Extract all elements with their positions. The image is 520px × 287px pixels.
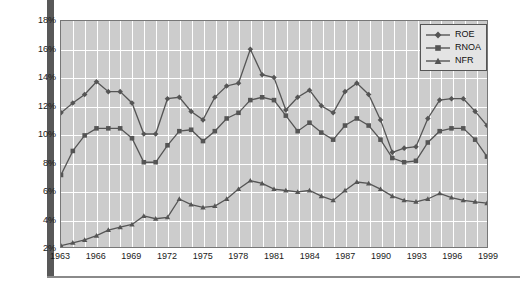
x-axis-tick-label: 1963 — [40, 251, 80, 261]
x-axis-tick-label: 1987 — [325, 251, 365, 261]
x-axis-tick-label: 1993 — [397, 251, 437, 261]
data-point-marker — [141, 131, 147, 137]
legend-item-roe: ROE — [425, 28, 481, 41]
data-point-marker — [60, 173, 63, 178]
data-point-marker — [165, 143, 170, 148]
legend-swatch-diamond-icon — [425, 29, 451, 41]
legend-label-nfr: NFR — [455, 56, 474, 65]
series-rnoa — [60, 95, 488, 177]
data-point-marker — [295, 129, 300, 134]
series-line — [61, 97, 487, 175]
data-point-marker — [355, 116, 360, 121]
x-axis-tick-label: 1999 — [468, 251, 508, 261]
data-point-marker — [248, 98, 253, 103]
x-axis-tick-label: 1978 — [218, 251, 258, 261]
y-axis-tick-label: 14% — [2, 73, 56, 82]
x-axis-tick-label: 1990 — [361, 251, 401, 261]
data-point-marker — [390, 156, 395, 161]
legend-item-rnoa: RNOA — [425, 41, 481, 54]
y-axis-tick-label: 6% — [2, 187, 56, 196]
data-point-marker — [307, 120, 312, 125]
data-point-marker — [165, 96, 171, 102]
data-point-marker — [71, 149, 76, 154]
x-axis-tick-label: 1972 — [147, 251, 187, 261]
data-point-marker — [461, 126, 466, 131]
data-point-marker — [378, 137, 383, 142]
data-point-marker — [343, 123, 348, 128]
data-point-marker — [449, 126, 454, 131]
data-point-marker — [201, 139, 206, 144]
data-point-marker — [141, 213, 146, 218]
data-point-marker — [118, 126, 123, 131]
data-point-marker — [473, 137, 478, 142]
data-point-marker — [414, 159, 419, 164]
legend-item-nfr: NFR — [425, 54, 481, 67]
data-point-marker — [260, 95, 265, 100]
y-axis-tick-label: 16% — [2, 45, 56, 54]
legend-label-roe: ROE — [455, 30, 475, 39]
data-point-marker — [366, 123, 371, 128]
series-nfr — [60, 178, 488, 248]
y-axis-tick-label: 12% — [2, 102, 56, 111]
data-point-marker — [106, 126, 111, 131]
data-point-marker — [402, 160, 407, 165]
data-point-marker — [153, 131, 159, 137]
data-point-marker — [437, 129, 442, 134]
x-axis-tick-label: 1969 — [111, 251, 151, 261]
data-point-marker — [213, 129, 218, 134]
x-axis: 1963196619691972197519781981198419871990… — [60, 251, 488, 265]
data-point-marker — [224, 116, 229, 121]
legend-swatch-square-icon — [425, 42, 451, 54]
legend-label-rnoa: RNOA — [455, 43, 481, 52]
data-point-marker — [390, 193, 395, 198]
y-axis-tick-label: 18% — [2, 16, 56, 25]
data-point-marker — [330, 110, 336, 116]
data-point-marker — [401, 145, 407, 151]
data-point-marker — [426, 140, 431, 145]
data-point-marker — [319, 130, 324, 135]
data-point-marker — [437, 191, 442, 196]
data-point-marker — [449, 96, 455, 102]
data-point-marker — [177, 129, 182, 134]
data-point-marker — [284, 113, 289, 118]
x-axis-tick-label: 1996 — [432, 251, 472, 261]
data-point-marker — [189, 127, 194, 132]
legend-swatch-triangle-icon — [425, 55, 451, 67]
y-axis-tick-label: 4% — [2, 216, 56, 225]
data-point-marker — [153, 160, 158, 165]
line-chart: 18%16%14%12%10%8%6%4%2% 1963196619691972… — [0, 0, 520, 287]
data-point-marker — [259, 72, 265, 78]
x-axis-tick-label: 1966 — [76, 251, 116, 261]
data-point-marker — [378, 117, 384, 123]
data-point-marker — [130, 136, 135, 141]
y-axis: 18%16%14%12%10%8%6%4%2% — [0, 20, 56, 248]
data-point-marker — [82, 133, 87, 138]
x-axis-tick-label: 1975 — [183, 251, 223, 261]
data-point-marker — [272, 98, 277, 103]
x-axis-tick-label: 1981 — [254, 251, 294, 261]
data-point-marker — [142, 160, 147, 165]
data-point-marker — [236, 111, 241, 116]
data-point-marker — [413, 144, 419, 150]
data-point-marker — [94, 126, 99, 131]
data-point-marker — [271, 75, 277, 81]
x-axis-tick-label: 1984 — [290, 251, 330, 261]
data-point-marker — [248, 178, 253, 183]
data-point-marker — [236, 80, 242, 86]
data-point-marker — [331, 137, 336, 142]
chart-legend: ROE RNOA NFR — [420, 24, 487, 71]
y-axis-tick-label: 10% — [2, 130, 56, 139]
data-point-marker — [485, 154, 488, 159]
data-point-marker — [177, 196, 182, 201]
y-axis-tick-label: 8% — [2, 159, 56, 168]
data-point-marker — [248, 46, 254, 52]
